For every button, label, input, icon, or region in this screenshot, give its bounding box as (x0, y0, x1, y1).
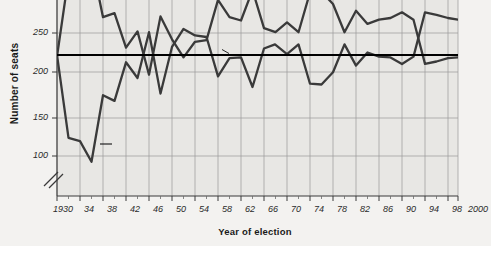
x-axis-ticks (57, 196, 458, 201)
chart-canvas (0, 0, 491, 274)
y-axis-ticks (52, 33, 57, 156)
chart-figure: Number of seats Year of election 250 200… (0, 0, 491, 274)
plot-area (57, 0, 458, 196)
